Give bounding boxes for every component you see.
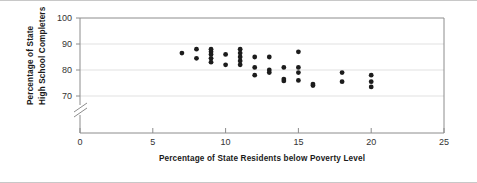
y-tick-label-90: 90: [62, 39, 72, 49]
data-point: [180, 51, 185, 56]
data-point: [311, 83, 316, 88]
data-point: [281, 79, 286, 84]
x-axis-title: Percentage of State Residents below Pove…: [159, 154, 365, 163]
data-point: [267, 70, 272, 75]
y-tick-label-80: 80: [62, 65, 72, 75]
data-point: [281, 65, 286, 70]
data-point: [267, 55, 272, 60]
y-tick-label-100: 100: [57, 13, 72, 23]
data-point: [296, 65, 301, 70]
gridlines: [80, 44, 444, 96]
data-points: [180, 47, 374, 90]
x-tick-label-25: 25: [439, 137, 449, 147]
data-point: [369, 85, 374, 90]
x-tick-label-15: 15: [293, 137, 303, 147]
data-point: [296, 70, 301, 75]
data-point: [252, 65, 257, 70]
y-axis-title: Percentage of State High School Complete…: [26, 6, 47, 105]
data-point: [296, 49, 301, 54]
data-point: [209, 60, 214, 65]
y-axis-ticks: 708090100: [57, 13, 80, 101]
data-point: [223, 52, 228, 57]
data-point: [238, 62, 243, 67]
y-tick-label-70: 70: [62, 91, 72, 101]
x-tick-label-5: 5: [150, 137, 155, 147]
y-axis-break-icon: [74, 103, 87, 117]
data-point: [194, 56, 199, 61]
data-point: [340, 79, 345, 84]
x-tick-label-20: 20: [366, 137, 376, 147]
data-point: [340, 70, 345, 75]
data-point: [369, 73, 374, 78]
scatter-plot-figure: 708090100 0510152025 Percentage of State…: [0, 0, 477, 183]
y-axis-title-line-1: Percentage of State: [26, 25, 35, 105]
data-point: [369, 79, 374, 84]
data-point: [252, 73, 257, 78]
scatter-plot-canvas: 708090100 0510152025 Percentage of State…: [0, 0, 477, 183]
data-point: [252, 55, 257, 60]
data-point: [223, 62, 228, 67]
x-tick-label-10: 10: [221, 137, 231, 147]
y-axis-title-line-2: High School Completers: [38, 6, 47, 105]
data-point: [194, 47, 199, 52]
data-point: [296, 78, 301, 83]
plot-frame: [80, 18, 444, 133]
x-tick-label-0: 0: [77, 137, 82, 147]
x-axis-ticks: 0510152025: [77, 128, 449, 147]
